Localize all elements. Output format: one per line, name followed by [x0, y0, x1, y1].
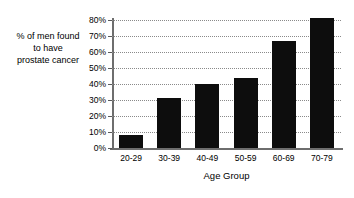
bar: [272, 41, 296, 148]
y-tick-label: 30%: [89, 96, 106, 105]
x-axis-title: Age Group: [112, 170, 341, 181]
y-tick-label: 40%: [89, 80, 106, 89]
bar: [195, 84, 219, 148]
bar-slot: [150, 20, 188, 148]
y-tick-label: 10%: [89, 128, 106, 137]
y-tick-label: 0%: [94, 144, 106, 153]
y-tick-label: 20%: [89, 112, 106, 121]
y-tick-label: 50%: [89, 64, 106, 73]
bar-chart: % of men found to have prostate cancer 0…: [0, 0, 354, 198]
y-tick-label: 80%: [89, 16, 106, 25]
x-tick-label: 70-79: [303, 153, 341, 163]
x-tick-label: 60-69: [265, 153, 303, 163]
y-tick-label: 60%: [89, 48, 106, 57]
bar-slot: [227, 20, 265, 148]
x-tick-label: 30-39: [150, 153, 188, 163]
y-tick-mark: [108, 148, 112, 149]
bar-slot: [188, 20, 226, 148]
plot-area: 0%10%20%30%40%50%60%70%80%: [112, 20, 341, 148]
bar-slot: [112, 20, 150, 148]
bar: [119, 135, 143, 148]
y-axis-title-line-3: prostate cancer: [2, 54, 94, 66]
x-tick-label: 50-59: [227, 153, 265, 163]
x-tick-label: 20-29: [112, 153, 150, 163]
y-axis-title-line-2: to have: [2, 42, 94, 54]
bar: [310, 18, 334, 148]
y-axis-title: % of men found to have prostate cancer: [2, 30, 94, 66]
y-axis-title-line-1: % of men found: [2, 30, 94, 42]
y-tick-label: 70%: [89, 32, 106, 41]
x-axis-line: [110, 148, 343, 150]
bar-slot: [303, 20, 341, 148]
x-tick-label: 40-49: [188, 153, 226, 163]
bar: [234, 78, 258, 148]
bar-slot: [265, 20, 303, 148]
bar: [157, 98, 181, 148]
